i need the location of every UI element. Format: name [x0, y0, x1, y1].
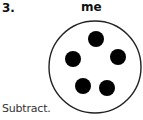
- dots-group: [65, 31, 126, 96]
- dot: [110, 49, 126, 65]
- dot: [88, 31, 104, 47]
- instruction-text: Subtract.: [2, 102, 51, 116]
- dot: [99, 80, 115, 96]
- dot: [65, 51, 81, 67]
- dot: [75, 78, 91, 94]
